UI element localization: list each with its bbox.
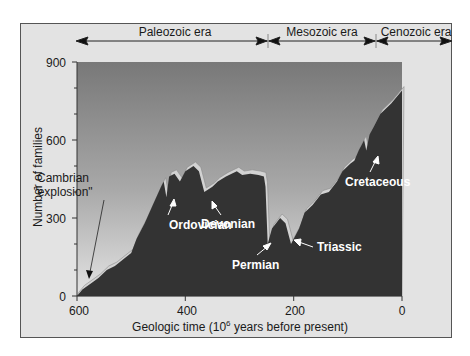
- annotation-cambrian: Cambrian: [37, 171, 89, 185]
- x-axis-title: Geologic time (106 years before present): [132, 319, 348, 334]
- annotation-triassic: Triassic: [317, 240, 362, 254]
- annotation-cretaceous: Cretaceous: [345, 175, 411, 189]
- x-tick-600: 600: [69, 304, 89, 318]
- x-tick-200: 200: [285, 304, 305, 318]
- chart: 900 600 300 0 600 400 200 0 Number of fa…: [0, 0, 470, 356]
- y-tick-0: 0: [59, 290, 66, 304]
- era-label-paleozoic: Paleozoic era: [139, 25, 212, 39]
- era-label-mesozoic: Mesozoic era: [286, 25, 358, 39]
- era-label-cenozoic: Cenozoic era: [381, 25, 452, 39]
- annotation-explosion: "explosion": [33, 185, 92, 199]
- x-tick-0: 0: [399, 304, 406, 318]
- x-ticks: [77, 296, 402, 301]
- annotation-devonian: Devonian: [201, 217, 255, 231]
- annotation-permian: Permian: [232, 258, 279, 272]
- y-tick-300: 300: [46, 212, 66, 226]
- y-tick-600: 600: [46, 134, 66, 148]
- x-tick-400: 400: [177, 304, 197, 318]
- y-tick-900: 900: [46, 56, 66, 70]
